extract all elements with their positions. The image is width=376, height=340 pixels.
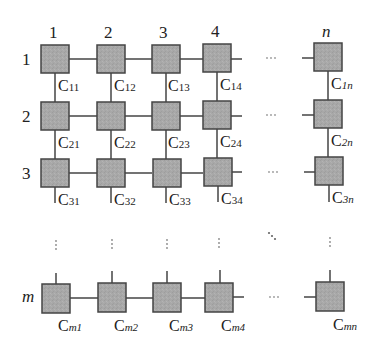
- cell-label-c32: C32: [114, 192, 136, 208]
- row-header-1: 1: [22, 51, 31, 68]
- cell-label-c21: C21: [58, 135, 80, 151]
- cell-label-cm3: Cm3: [169, 318, 193, 334]
- column-header-2: 2: [104, 24, 113, 41]
- cell-label-cm4: Cm4: [221, 318, 245, 334]
- row-header-m: m: [22, 288, 34, 305]
- cell-label-c13: C13: [168, 78, 190, 94]
- cell-label-c31: C31: [58, 192, 80, 208]
- cell-label-c2n: C2n: [331, 133, 353, 149]
- vertical-ellipsis-dots: [55, 237, 331, 250]
- cell-label-cm1: Cm1: [58, 318, 82, 334]
- horizontal-ellipsis-dots: [266, 57, 279, 298]
- cell-label-c33: C33: [169, 192, 191, 208]
- row-header-2: 2: [22, 108, 31, 125]
- cell-boxes: [41, 43, 344, 313]
- cell-label-c24: C24: [220, 134, 242, 150]
- cell-label-c14: C14: [220, 77, 242, 93]
- cell-label-cmn: Cmn: [333, 317, 357, 333]
- column-header-1: 1: [49, 24, 58, 41]
- column-header-4: 4: [211, 23, 220, 40]
- cell-label-c22: C22: [114, 135, 136, 151]
- cell-label-c34: C34: [221, 191, 243, 207]
- diagonal-ellipsis-dots: [268, 232, 276, 240]
- cell-label-cm2: Cm2: [114, 318, 138, 334]
- cell-label-c1n: C1n: [331, 76, 353, 92]
- cell-label-c11: C11: [58, 78, 79, 94]
- cell-label-c23: C23: [168, 135, 190, 151]
- cell-label-c12: C12: [114, 78, 136, 94]
- column-header-3: 3: [159, 24, 168, 41]
- row-header-3: 3: [22, 165, 31, 182]
- grid-diagram: [0, 0, 376, 340]
- column-header-n: n: [322, 23, 331, 40]
- cell-label-c3n: C3n: [332, 190, 354, 206]
